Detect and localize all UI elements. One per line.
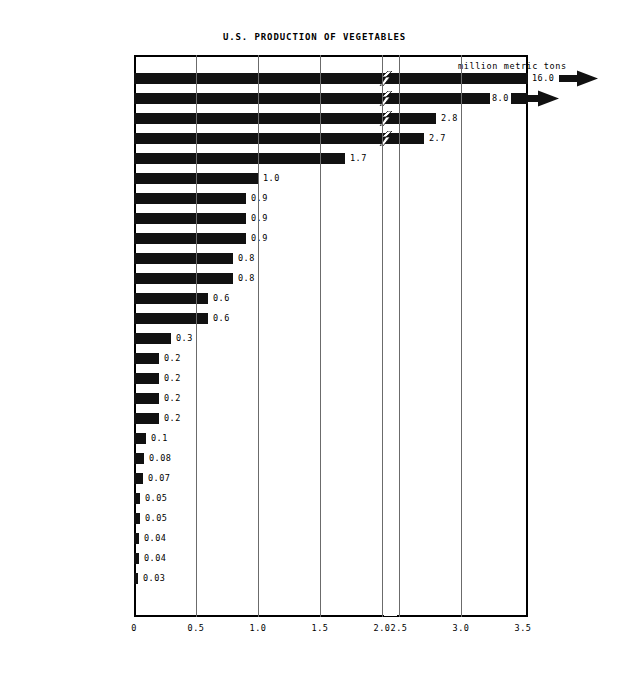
bar-value-label: 0.03 (143, 573, 165, 584)
bar-value-label: 0.9 (251, 193, 268, 204)
bar-row[interactable]: BRUSSELS SPROUTS0.04 (0, 550, 629, 570)
axis-break-notch (384, 613, 397, 616)
bar-value-label: 0.05 (145, 493, 167, 504)
bar (134, 353, 159, 364)
gridline (320, 55, 321, 617)
gridline (461, 55, 462, 617)
bar (134, 153, 345, 164)
bar-value-label: 0.2 (164, 393, 181, 404)
bar-row[interactable]: ESCAROLE0.05 (0, 510, 629, 530)
bar (134, 213, 246, 224)
gridline (196, 55, 197, 617)
chart-title: U.S. PRODUCTION OF VEGETABLES (0, 32, 629, 42)
bar-row[interactable]: ASPARAGUS0.08 (0, 450, 629, 470)
bar-row[interactable]: CELERY0.8 (0, 250, 629, 270)
bar-row[interactable]: OLIVE0.07 (0, 470, 629, 490)
bar (134, 533, 139, 544)
offscale-arrow-icon (520, 90, 560, 107)
gridline (258, 55, 259, 617)
gridline (399, 55, 400, 617)
bar (134, 373, 159, 384)
x-axis-tick-label: 2.0 (374, 623, 391, 633)
bar-value-label: 0.2 (164, 353, 181, 364)
bar (134, 93, 528, 104)
gridline (382, 55, 383, 617)
bar (134, 493, 140, 504)
x-axis-tick-label: 3.5 (515, 623, 532, 633)
bar-row[interactable]: CABBAGE1.0 (0, 170, 629, 190)
bar-row[interactable]: BEANS, SNAP0.8 (0, 270, 629, 290)
bar-value-label: 0.1 (151, 433, 168, 444)
bar (134, 393, 159, 404)
vegetable-production-bar-chart: U.S. PRODUCTION OF VEGETABLES million me… (0, 0, 629, 688)
bar (134, 573, 138, 584)
bar-row[interactable]: TOMATOES8.0 (0, 90, 629, 110)
bar (134, 333, 171, 344)
bar (134, 433, 146, 444)
bar-row[interactable]: ONIONS1.7 (0, 150, 629, 170)
bar-value-label: 2.7 (429, 133, 446, 144)
x-axis-tick-label: 0 (131, 623, 137, 633)
bar-row[interactable]: CORN, SWEET2.8 (0, 110, 629, 130)
x-axis-tick-label: 2.5 (391, 623, 408, 633)
bar-row[interactable]: CUCUMBERS0.9 (0, 230, 629, 250)
bar (134, 193, 246, 204)
bar-row[interactable]: CAULIFLOWER0.2 (0, 410, 629, 430)
bar-value-label: 16.0 (532, 73, 554, 84)
bar-value-label: 1.0 (263, 173, 280, 184)
bar (134, 253, 233, 264)
bar-value-label: 0.08 (149, 453, 171, 464)
bar-value-label: 0.9 (251, 213, 268, 224)
bar-row[interactable]: PEPPERS, GREEN0.2 (0, 370, 629, 390)
bar-value-label: 0.8 (238, 273, 255, 284)
bar-value-label: 0.6 (213, 313, 230, 324)
bar-value-label: 0.6 (213, 293, 230, 304)
bar-row[interactable]: GARLIC0.05 (0, 490, 629, 510)
bar-row[interactable]: ARTICHOKES0.04 (0, 530, 629, 550)
bar-value-label: 0.05 (145, 513, 167, 524)
bar (134, 413, 159, 424)
bar (134, 473, 143, 484)
bar-value-label: 0.04 (144, 553, 166, 564)
bar-value-label: 0.3 (176, 333, 193, 344)
bar (134, 453, 144, 464)
bar (134, 233, 246, 244)
bar-row[interactable]: LETTUCE2.7 (0, 130, 629, 150)
bar-row[interactable]: BEETS0.2 (0, 350, 629, 370)
x-axis-tick-label: 0.5 (188, 623, 205, 633)
x-axis-tick-label: 3.0 (453, 623, 470, 633)
bar (134, 273, 233, 284)
bar-row[interactable]: SWEET POTATOES0.6 (0, 290, 629, 310)
bar (134, 553, 139, 564)
x-axis-tick-label: 1.5 (312, 623, 329, 633)
bar-value-label: 0.9 (251, 233, 268, 244)
bar-value-label: 2.8 (441, 113, 458, 124)
bar-row[interactable]: BEANS, LIMA0.1 (0, 430, 629, 450)
bar-value-label: 0.2 (164, 373, 181, 384)
bar (134, 513, 140, 524)
bar-row[interactable]: BEANS, DRIED0.9 (0, 190, 629, 210)
bar-row[interactable]: BROCCOLI0.3 (0, 330, 629, 350)
bar-row[interactable]: POTATOES, IRISH16.0 (0, 70, 629, 90)
bar-value-label: 0.2 (164, 413, 181, 424)
bar-value-label: 0.07 (148, 473, 170, 484)
bar-row[interactable]: PEAS, GREEN0.6 (0, 310, 629, 330)
x-axis-tick-label: 1.0 (250, 623, 267, 633)
bar-value-label: 1.7 (350, 153, 367, 164)
bar-value-label: 0.04 (144, 533, 166, 544)
bar-row[interactable]: SPINACH0.2 (0, 390, 629, 410)
bar (134, 73, 528, 84)
bar-row[interactable]: EGGPLANT0.03 (0, 570, 629, 590)
bar-value-label: 8.0 (490, 93, 511, 104)
offscale-arrow-icon (559, 70, 599, 87)
bar-row[interactable]: CARROTS0.9 (0, 210, 629, 230)
bar-value-label: 0.8 (238, 253, 255, 264)
